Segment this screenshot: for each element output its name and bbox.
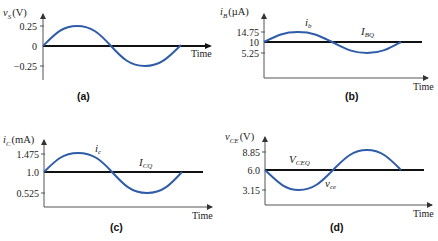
caption-b: (b) [345,90,358,102]
ib-label: ib [305,16,312,30]
tick-label: 10 [249,37,259,48]
time-label: Time [413,208,434,219]
vce-label: vce [325,177,336,191]
tick-label: −0.25 [14,61,37,72]
panel-d: vCE(V) 8.85 6.0 3.15 VCEQ vce Time (d) [225,131,434,233]
tick-label: 3.15 [243,185,261,196]
tick-label: 6.0 [248,165,261,176]
panel-a: vS(V) 0.25 0 −0.25 Time (a) [3,7,212,102]
y-axis-label: vCE(V) [225,131,255,145]
tick-label: 5.25 [242,48,260,59]
panel-c: iC(mA) 1.475 1.0 0.525 ic ICQ Time (c) [3,134,213,233]
tick-label: 1.475 [17,149,40,160]
caption-d: (d) [330,221,343,233]
icq-label: ICQ [138,156,152,170]
ibq-label: IBQ [360,25,374,39]
time-label: Time [192,210,213,221]
waveform-figure: vS(V) 0.25 0 −0.25 Time (a) iB(µA) 14.75… [0,0,438,241]
tick-label: 8.85 [243,147,261,158]
tick-label: 0 [32,41,37,52]
time-label: Time [413,81,434,92]
caption-a: (a) [77,90,90,102]
tick-label: 1.0 [27,167,40,178]
tick-label: 0.25 [20,21,38,32]
y-axis-label: iB(µA) [220,6,249,20]
y-axis-label: iC(mA) [3,134,35,148]
caption-c: (c) [110,221,123,233]
y-axis-label: vS(V) [3,7,27,21]
ic-label: ic [95,142,102,156]
tick-label: 0.525 [17,188,40,199]
vceq-label: VCEQ [289,153,310,167]
panel-b: iB(µA) 14.75 10 5.25 ib IBQ Time (b) [220,6,434,102]
time-label: Time [191,48,212,59]
